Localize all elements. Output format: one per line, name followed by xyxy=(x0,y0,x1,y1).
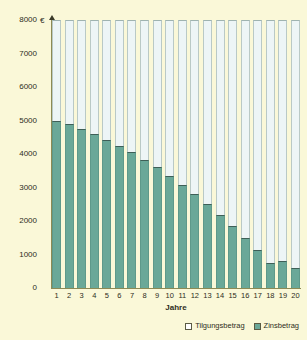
bar-segment-zinsbetrag[interactable] xyxy=(153,167,162,288)
bar-column[interactable] xyxy=(278,20,287,288)
legend-swatch-icon xyxy=(254,323,261,330)
legend-label: Zinsbetrag xyxy=(264,322,299,330)
x-axis-tick-label: 10 xyxy=(165,291,174,300)
bar-segment-tilgungsbetrag[interactable] xyxy=(115,20,124,146)
bar-segment-tilgungsbetrag[interactable] xyxy=(190,20,199,194)
bar-segment-zinsbetrag[interactable] xyxy=(115,146,124,288)
x-axis-tick-label: 6 xyxy=(115,291,124,300)
bar-segment-tilgungsbetrag[interactable] xyxy=(278,20,287,261)
bar-segment-tilgungsbetrag[interactable] xyxy=(65,20,74,124)
bar-column[interactable] xyxy=(65,20,74,288)
legend-entry[interactable]: Zinsbetrag xyxy=(254,322,299,330)
bar-column[interactable] xyxy=(241,20,250,288)
x-axis-tick-label: 20 xyxy=(291,291,300,300)
bar-segment-tilgungsbetrag[interactable] xyxy=(127,20,136,152)
bar-segment-tilgungsbetrag[interactable] xyxy=(203,20,212,204)
bar-segment-tilgungsbetrag[interactable] xyxy=(216,20,225,215)
bar-column[interactable] xyxy=(228,20,237,288)
x-axis-tick-label: 17 xyxy=(253,291,262,300)
bar-segment-tilgungsbetrag[interactable] xyxy=(77,20,86,129)
bar-segment-zinsbetrag[interactable] xyxy=(140,160,149,288)
bar-segment-tilgungsbetrag[interactable] xyxy=(228,20,237,226)
bar-segment-tilgungsbetrag[interactable] xyxy=(291,20,300,268)
y-axis-tick-label: 0 xyxy=(33,284,37,292)
amortization-chart: 010002000300040005000600070008000 € 1234… xyxy=(0,0,307,340)
legend-swatch-icon xyxy=(185,323,192,330)
bar-segment-zinsbetrag[interactable] xyxy=(203,204,212,288)
bar-column[interactable] xyxy=(253,20,262,288)
bar-column[interactable] xyxy=(52,20,61,288)
x-axis-tick-label: 16 xyxy=(241,291,250,300)
bar-segment-tilgungsbetrag[interactable] xyxy=(253,20,262,250)
bar-segment-zinsbetrag[interactable] xyxy=(52,121,61,289)
x-axis-tick-label: 3 xyxy=(77,291,86,300)
bar-column[interactable] xyxy=(77,20,86,288)
bar-column[interactable] xyxy=(165,20,174,288)
x-axis-tick-label: 13 xyxy=(203,291,212,300)
bar-column[interactable] xyxy=(178,20,187,288)
bar-segment-zinsbetrag[interactable] xyxy=(190,194,199,288)
bar-segment-tilgungsbetrag[interactable] xyxy=(178,20,187,185)
x-axis-line xyxy=(51,288,301,289)
bar-segment-zinsbetrag[interactable] xyxy=(278,261,287,288)
y-axis-tick-label: 7000 xyxy=(19,50,37,58)
x-axis-tick-labels: 1234567891011121314151617181920 xyxy=(52,291,300,300)
legend-entry[interactable]: Tilgungsbetrag xyxy=(185,322,244,330)
bar-column[interactable] xyxy=(190,20,199,288)
bar-segment-tilgungsbetrag[interactable] xyxy=(52,20,61,121)
bar-segment-zinsbetrag[interactable] xyxy=(266,263,275,288)
y-axis-tick-label: 6000 xyxy=(19,83,37,91)
bar-column[interactable] xyxy=(291,20,300,288)
x-axis-tick-label: 7 xyxy=(127,291,136,300)
bar-column[interactable] xyxy=(90,20,99,288)
bar-column[interactable] xyxy=(140,20,149,288)
x-axis-title: Jahre xyxy=(52,303,300,312)
x-axis-tick-label: 1 xyxy=(52,291,61,300)
x-axis-tick-label: 11 xyxy=(178,291,187,300)
x-axis-tick-label: 4 xyxy=(90,291,99,300)
bar-segment-zinsbetrag[interactable] xyxy=(127,152,136,288)
bar-segment-zinsbetrag[interactable] xyxy=(291,268,300,288)
y-axis-tick-label: 5000 xyxy=(19,117,37,125)
bar-column[interactable] xyxy=(127,20,136,288)
y-axis-tick-label: 8000 xyxy=(19,16,37,24)
bar-segment-zinsbetrag[interactable] xyxy=(241,238,250,288)
plot-area xyxy=(52,20,300,288)
bar-segment-tilgungsbetrag[interactable] xyxy=(153,20,162,167)
bar-segment-zinsbetrag[interactable] xyxy=(253,250,262,288)
bar-column[interactable] xyxy=(203,20,212,288)
y-axis-tick-label: 1000 xyxy=(19,251,37,259)
x-axis-tick-label: 14 xyxy=(216,291,225,300)
bar-segment-zinsbetrag[interactable] xyxy=(228,226,237,288)
bar-segment-tilgungsbetrag[interactable] xyxy=(241,20,250,238)
legend-label: Tilgungsbetrag xyxy=(195,322,244,330)
bar-column[interactable] xyxy=(102,20,111,288)
bar-segment-zinsbetrag[interactable] xyxy=(90,134,99,288)
x-axis-tick-label: 15 xyxy=(228,291,237,300)
x-axis-tick-label: 18 xyxy=(266,291,275,300)
bar-segment-zinsbetrag[interactable] xyxy=(165,176,174,288)
y-axis-tick-label: 3000 xyxy=(19,184,37,192)
bar-column[interactable] xyxy=(216,20,225,288)
euro-currency-symbol: € xyxy=(40,17,44,25)
bar-column[interactable] xyxy=(115,20,124,288)
chart-legend: TilgungsbetragZinsbetrag xyxy=(0,322,307,330)
x-axis-tick-label: 2 xyxy=(65,291,74,300)
x-axis-tick-label: 9 xyxy=(153,291,162,300)
bar-segment-zinsbetrag[interactable] xyxy=(65,124,74,288)
bar-segment-tilgungsbetrag[interactable] xyxy=(165,20,174,176)
bar-segment-tilgungsbetrag[interactable] xyxy=(266,20,275,263)
x-axis-tick-label: 12 xyxy=(190,291,199,300)
x-axis-tick-label: 5 xyxy=(102,291,111,300)
y-axis: 010002000300040005000600070008000 xyxy=(0,0,40,340)
bar-segment-tilgungsbetrag[interactable] xyxy=(140,20,149,160)
bar-segment-zinsbetrag[interactable] xyxy=(77,129,86,288)
x-axis-tick-label: 8 xyxy=(140,291,149,300)
bar-segment-tilgungsbetrag[interactable] xyxy=(102,20,111,140)
bar-segment-zinsbetrag[interactable] xyxy=(178,185,187,288)
bar-segment-tilgungsbetrag[interactable] xyxy=(90,20,99,134)
bar-segment-zinsbetrag[interactable] xyxy=(216,215,225,288)
bar-segment-zinsbetrag[interactable] xyxy=(102,140,111,288)
bar-column[interactable] xyxy=(153,20,162,288)
bar-column[interactable] xyxy=(266,20,275,288)
